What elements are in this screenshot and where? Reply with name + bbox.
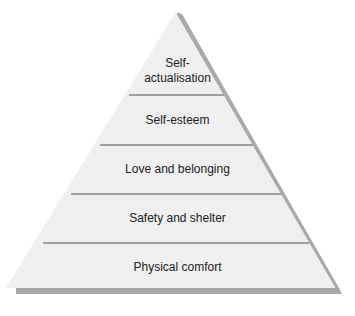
pyramid-body: [6, 12, 336, 288]
level-love-belonging: Love and belonging: [0, 162, 355, 177]
level-self-actualisation-line1: Self-: [0, 56, 355, 71]
level-safety-shelter: Safety and shelter: [0, 211, 355, 226]
level-self-actualisation-line2: actualisation: [0, 71, 355, 86]
level-physical-comfort: Physical comfort: [0, 260, 355, 275]
level-self-esteem: Self-esteem: [0, 113, 355, 128]
level-self-actualisation: Self- actualisation: [0, 56, 355, 86]
